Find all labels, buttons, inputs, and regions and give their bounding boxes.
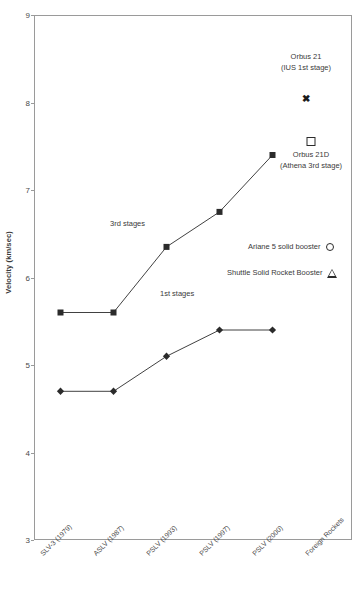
annotation-ariane-5-label: Ariane 5 solid booster	[248, 242, 321, 252]
y-tick-label-8: 8	[4, 98, 30, 107]
y-tick-label-9: 9	[4, 11, 30, 20]
y-tick-label-5: 5	[4, 361, 30, 370]
y-tick-label-3: 3	[4, 536, 30, 545]
series-label-3rd-stages: 3rd stages	[110, 219, 145, 228]
series-label-1st-stages: 1st stages	[160, 289, 194, 298]
y-tick-label-6: 6	[4, 273, 30, 282]
y-tick-label-4: 4	[4, 448, 30, 457]
annotation-orbus-21d: Orbus 21D (Athena 3rd stage)	[256, 150, 363, 171]
annotation-ariane-5-solid-booster: Ariane 5 solid booster	[248, 242, 334, 252]
annotation-orbus-21-line1: Orbus 21	[258, 52, 354, 63]
y-tick-label-7: 7	[4, 186, 30, 195]
open-triangle-marker-icon	[327, 269, 337, 278]
orbus-21d-square-marker	[307, 132, 316, 150]
annotation-shuttle-srb-label: Shuttle Solid Rocket Booster	[227, 268, 322, 278]
open-circle-marker-icon	[326, 243, 334, 251]
annotation-orbus-21d-line1: Orbus 21D	[256, 150, 363, 161]
annotation-orbus-21-line2: (IUS 1st stage)	[258, 63, 354, 74]
y-tick-mark-3	[31, 540, 34, 541]
open-square-marker-icon	[307, 137, 316, 146]
y-axis-title: Velocity (km/sec)	[4, 203, 13, 323]
annotation-shuttle-solid-rocket-booster: Shuttle Solid Rocket Booster	[227, 268, 337, 278]
velocity-comparison-chart: Velocity (km/sec) 9876543 3rd stages 1st…	[0, 0, 363, 609]
x-marker-icon: ✖	[302, 95, 310, 103]
orbus-21-x-marker: ✖	[302, 88, 310, 106]
annotation-orbus-21: Orbus 21 (IUS 1st stage)	[258, 52, 354, 73]
annotation-orbus-21d-line2: (Athena 3rd stage)	[256, 161, 363, 172]
